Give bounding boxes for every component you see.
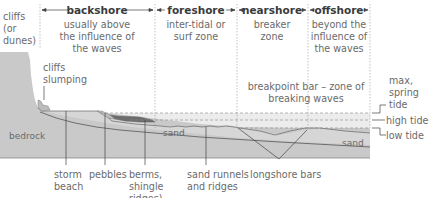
cliffs-slumping-1: cliffs xyxy=(43,62,65,73)
backshore-desc-1: usually above xyxy=(64,19,131,30)
tide-brackets xyxy=(372,105,386,135)
sand-label-near: sand xyxy=(163,128,185,138)
foreshore-desc-2: surf zone xyxy=(174,31,218,42)
backshore-desc-2: the influence of xyxy=(59,31,135,42)
offshore-desc-3: the waves xyxy=(314,43,363,54)
max-spring-tide-2: spring xyxy=(389,87,419,98)
berms-label-2: shingle xyxy=(129,181,164,192)
zone-header-offshore: offshore xyxy=(315,4,364,16)
sand-runnels-label-1: sand runnels xyxy=(187,169,249,180)
breakpoint-label-1: breakpoint bar – zone of xyxy=(248,81,365,92)
cliffs-slumping-2: slumping xyxy=(43,74,87,85)
breakpoint-label-2: breaking waves xyxy=(268,93,343,104)
nearshore-desc-1: breaker xyxy=(254,19,291,30)
high-tide-label: high tide xyxy=(386,115,428,126)
offshore-desc-1: beyond the xyxy=(312,19,367,30)
berms-label-1: berms, xyxy=(129,169,162,180)
max-spring-tide-1: max, xyxy=(389,75,413,86)
max-spring-tide-3: tide xyxy=(389,99,408,110)
bedrock-label: bedrock xyxy=(9,131,46,141)
cliffs-label-1: cliffs xyxy=(3,11,25,22)
zone-header-nearshore: nearshore xyxy=(242,4,302,16)
cliffs-label-2: (or xyxy=(3,23,17,34)
pebbles-label: pebbles xyxy=(89,169,127,180)
storm-beach-label-2: beach xyxy=(54,181,83,192)
nearshore-desc-2: zone xyxy=(261,31,284,42)
zone-header-backshore: backshore xyxy=(66,4,127,16)
longshore-bars-label: longshore bars xyxy=(250,169,321,180)
backshore-desc-3: the waves xyxy=(72,43,121,54)
sand-runnels-label-2: and ridges xyxy=(187,181,238,192)
zone-header-foreshore: foreshore xyxy=(167,4,224,16)
storm-beach-label-1: storm xyxy=(54,169,82,180)
cliffs-label-3: dunes) xyxy=(3,35,36,46)
low-tide-label: low tide xyxy=(386,130,424,141)
coastal-zones-diagram: backshore foreshore nearshore offshore u… xyxy=(0,0,435,198)
offshore-desc-2: influence of xyxy=(311,31,368,42)
foreshore-desc-1: inter-tidal or xyxy=(166,19,225,30)
cliff-slump xyxy=(38,100,50,111)
berms-label-3: ridges) xyxy=(129,193,162,198)
sand-label-far: sand xyxy=(342,138,364,148)
